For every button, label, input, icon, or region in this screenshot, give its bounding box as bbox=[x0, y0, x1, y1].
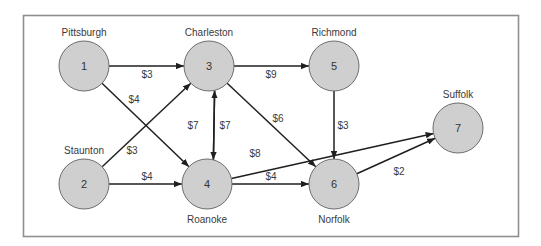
node-7: 7 bbox=[433, 103, 483, 153]
edge-cost-label: $3 bbox=[337, 120, 349, 131]
node-1: 1 bbox=[59, 41, 109, 91]
city-label: Suffolk bbox=[443, 89, 474, 100]
node-number: 3 bbox=[206, 60, 212, 72]
city-label: Staunton bbox=[64, 145, 104, 156]
node-5: 5 bbox=[309, 41, 359, 91]
edge-cost-label: $4 bbox=[128, 94, 140, 105]
node-2: 2 bbox=[59, 159, 109, 209]
node-4: 4 bbox=[182, 159, 232, 209]
edge-cost-label: $4 bbox=[141, 171, 153, 182]
node-number: 5 bbox=[331, 60, 337, 72]
edge-cost-label: $3 bbox=[126, 145, 138, 156]
edge-cost-label: $3 bbox=[141, 69, 153, 80]
edge-cost-label: $4 bbox=[265, 171, 277, 182]
node-number: 7 bbox=[455, 122, 461, 134]
edge-cost-label: $7 bbox=[187, 120, 199, 131]
node-number: 6 bbox=[331, 178, 337, 190]
network-diagram: 1234567 $3$4$3$4$9$7$7$6$8$4$3$2Pittsbur… bbox=[0, 0, 541, 246]
city-label: Norfolk bbox=[318, 214, 351, 225]
city-label: Richmond bbox=[311, 27, 356, 38]
city-label: Roanoke bbox=[187, 214, 227, 225]
node-number: 4 bbox=[204, 178, 210, 190]
node-number: 1 bbox=[81, 60, 87, 72]
edge-cost-label: $6 bbox=[272, 113, 284, 124]
node-number: 2 bbox=[81, 178, 87, 190]
edge-cost-label: $8 bbox=[249, 148, 261, 159]
edge-cost-label: $2 bbox=[393, 166, 405, 177]
node-3: 3 bbox=[184, 41, 234, 91]
city-label: Charleston bbox=[185, 27, 233, 38]
city-label: Pittsburgh bbox=[61, 27, 106, 38]
edge-cost-label: $7 bbox=[219, 120, 231, 131]
edge-cost-label: $9 bbox=[265, 69, 277, 80]
node-6: 6 bbox=[309, 159, 359, 209]
